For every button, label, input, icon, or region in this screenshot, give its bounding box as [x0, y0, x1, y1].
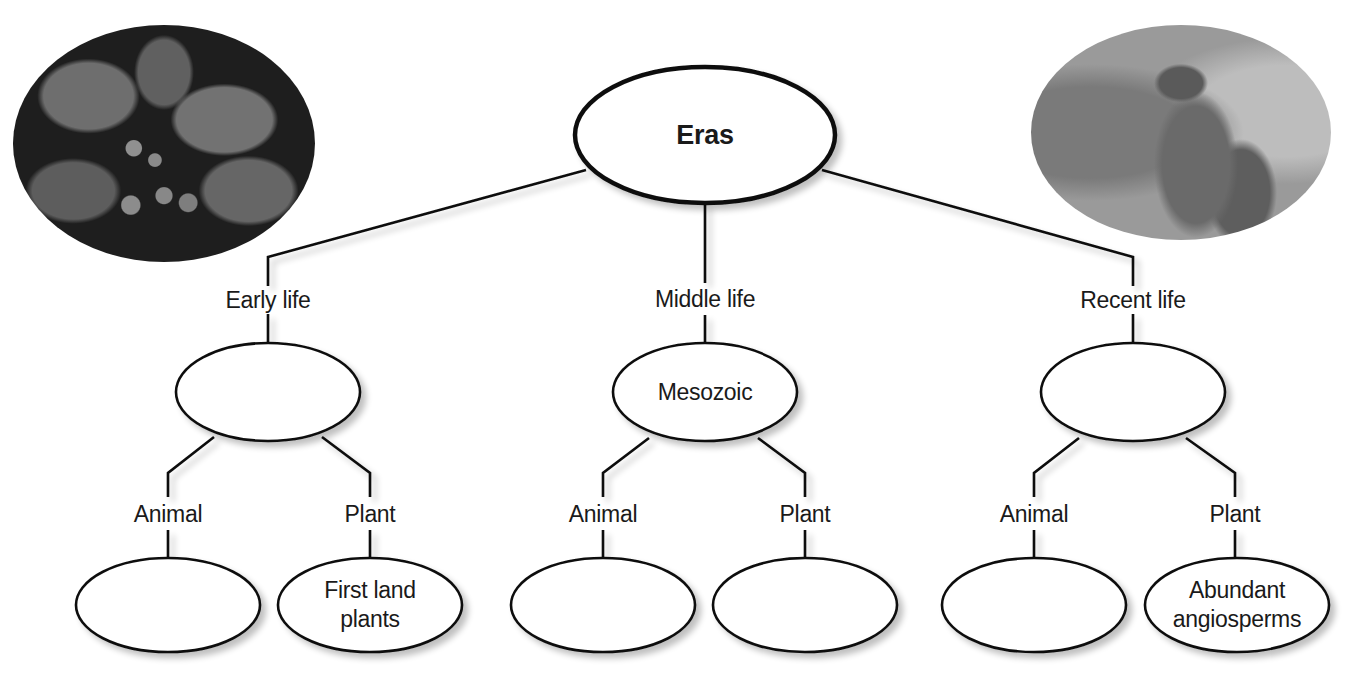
branch-label-middle-life: Middle life [655, 286, 755, 313]
branch-label-animal: Animal [569, 501, 638, 528]
root-node-label: Eras [676, 120, 733, 151]
era-node-recent [1041, 343, 1225, 441]
diagram-lines [0, 0, 1346, 675]
branch-label-plant: Plant [1210, 501, 1261, 528]
leaf-line-2: plants [324, 605, 416, 634]
branch-label-plant: Plant [780, 501, 831, 528]
connector-root-recent [822, 170, 1133, 286]
era-node-early [176, 343, 360, 441]
leaf-node-recent-plant: Abundant angiosperms [1173, 576, 1301, 634]
leaf-line-1: Abundant [1173, 576, 1301, 605]
connector-root-early [268, 170, 586, 286]
era-node-middle-text: Mesozoic [658, 379, 753, 406]
leaf-line-1: First land [324, 576, 416, 605]
leaf-line-2: angiosperms [1173, 605, 1301, 634]
branch-label-recent-life: Recent life [1080, 287, 1185, 314]
branch-label-animal: Animal [134, 501, 203, 528]
branch-label-animal: Animal [1000, 501, 1069, 528]
branch-label-plant: Plant [345, 501, 396, 528]
leaf-node-early-plant: First land plants [324, 576, 416, 634]
branch-label-early-life: Early life [225, 287, 310, 314]
